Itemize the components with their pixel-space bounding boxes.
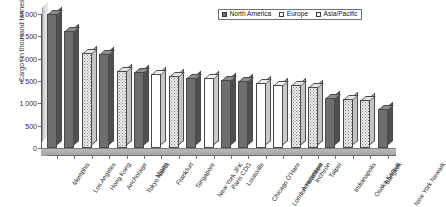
x-axis-tick-mark [353,156,354,159]
x-axis-tick-mark [301,156,302,159]
legend-label-europe: Europe [287,11,308,18]
x-axis-tick-mark [109,156,110,159]
x-axis-tick-mark [214,156,215,159]
x-axis-tick-mark [74,156,75,159]
x-axis-tick-mark [196,156,197,159]
x-axis-tick-mark [179,156,180,159]
x-axis-tick-mark [248,156,249,159]
x-axis-tick-label: New York Newark [412,161,446,207]
legend-swatch-north-america [222,12,227,17]
legend-item-north-america: North America [222,11,271,18]
x-axis-tick-mark [127,156,128,159]
x-axis-tick-mark [161,156,162,159]
x-axis-tick-label: Indianapolis [352,161,377,193]
legend-label-north-america: North America [230,11,272,18]
x-axis-tick-label: Singapore [194,161,216,189]
legend-swatch-europe [279,12,284,17]
legend-swatch-asia-pacific [316,12,321,17]
x-axis-tick-label: Frankfurt [175,161,195,186]
x-axis-tick-mark [388,156,389,159]
x-axis-tick-mark [57,156,58,159]
legend-item-europe: Europe [279,11,308,18]
x-axis-tick-mark [335,156,336,159]
x-axis-tick-mark [266,156,267,159]
x-axis-tick-mark [283,156,284,159]
x-axis-tick-mark [92,156,93,159]
legend-item-asia-pacific: Asia/Pacific [316,11,358,18]
chart-legend: North America Europe Asia/Pacific [218,9,362,20]
x-axis-tick-mark [144,156,145,159]
x-axis-tick-mark [370,156,371,159]
x-axis-tick-label: Memphis [70,161,90,186]
x-axis-tick-mark [231,156,232,159]
x-axis-tick-mark [318,156,319,159]
legend-label-asia-pacific: Asia/Pacific [324,11,358,18]
